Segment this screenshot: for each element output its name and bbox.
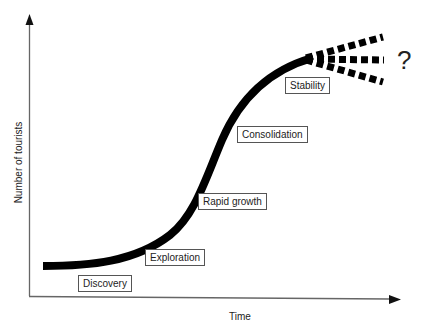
y-axis-arrow-icon (26, 14, 34, 25)
growth-curve (43, 58, 312, 266)
stage-label-discovery: Discovery (78, 275, 132, 292)
stage-label-exploration: Exploration (145, 249, 205, 266)
future-question-mark: ? (397, 47, 411, 73)
life-cycle-diagram (0, 0, 425, 333)
stage-label-consolidation: Consolidation (237, 126, 308, 143)
y-axis-label: Number of tourists (13, 118, 24, 208)
x-axis-arrow-icon (389, 295, 401, 304)
stage-label-stability: Stability (285, 77, 330, 94)
x-axis (29, 297, 390, 300)
stage-label-rapid-growth: Rapid growth (198, 193, 267, 210)
branch-up (306, 37, 383, 58)
x-axis-label: Time (229, 311, 251, 322)
